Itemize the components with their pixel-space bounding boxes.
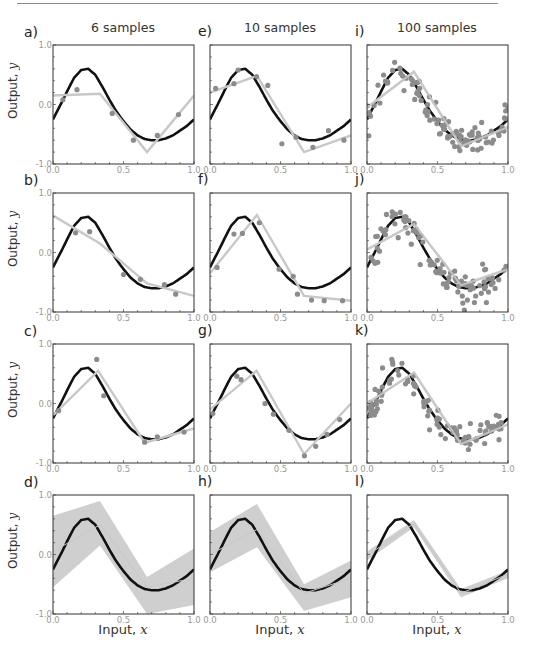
panel-e: 0.00.51.0 [203,45,358,175]
sample-point [431,117,436,122]
model-fit-line [210,76,351,152]
panel-g: 0.00.51.0 [203,344,358,474]
sample-point [417,86,422,91]
sample-point [176,112,181,117]
sample-point [375,83,380,88]
sample-point [182,429,187,434]
sample-point [238,377,243,382]
sample-point [377,100,382,105]
sample-point [455,289,460,294]
sample-point [432,262,437,267]
x-tick-label: 1.0 [501,464,515,474]
x-tick-label: 0.5 [117,615,131,625]
panel-h: 0.00.51.0 [203,495,358,625]
sample-point [460,300,465,305]
sample-point [466,447,471,452]
sample-point [74,87,79,92]
model-fit-line [367,524,508,594]
sample-point [443,436,448,441]
sample-point [392,221,397,226]
sample-point [213,86,218,91]
x-tick-label: 1.0 [501,615,515,625]
sample-point [437,425,442,430]
sample-point [496,277,501,282]
panel-c: 0.00.51.01.00.0-1.0 [35,339,200,474]
panel-d: 0.00.51.01.00.0-1.0 [35,490,200,625]
x-tick-label: 1.0 [501,165,515,175]
x-tick-label: 0.0 [203,615,217,625]
sample-point [419,98,424,103]
sample-point [483,267,488,272]
sample-point [257,220,262,225]
sample-point [434,269,439,274]
sample-point [240,231,245,236]
sample-point [265,83,270,88]
sample-point [385,80,390,85]
x-tick-label: 1.0 [344,313,358,323]
figure-grid: 0.00.51.01.00.0-1.00.00.51.01.00.0-1.00.… [0,0,540,659]
sample-point [390,362,395,367]
sample-point [389,214,394,219]
sample-point [482,441,487,446]
sample-point [73,230,78,235]
x-tick-label: 1.0 [187,165,201,175]
sample-point [463,137,468,142]
sample-point [410,82,415,87]
sample-point [503,116,508,121]
sample-point [468,421,473,426]
sample-point [286,428,291,433]
panel-a: 0.00.51.01.00.0-1.0 [35,40,200,175]
sample-point [486,290,491,295]
y-tick-label: 0.0 [38,248,52,258]
sample-point [442,127,447,132]
sample-point [496,414,501,419]
true-function-curve [210,368,351,439]
sample-point [390,68,395,73]
x-tick-label: 0.5 [431,464,445,474]
sample-point [502,102,507,107]
sample-point [392,60,397,65]
sample-point [414,91,419,96]
sample-point [121,272,126,277]
sample-point [155,434,160,439]
sample-point [405,231,410,236]
sample-point [478,422,483,427]
x-tick-label: 0.5 [431,313,445,323]
sample-point [409,242,414,247]
sample-point [380,365,385,370]
sample-point [470,133,475,138]
axes-frame [367,45,508,164]
y-tick-label: 1.0 [38,40,52,50]
sample-point [412,97,417,102]
sample-point [340,298,345,303]
x-tick-label: 0.5 [117,313,131,323]
sample-point [236,67,241,72]
sample-point [480,262,485,267]
sample-point [421,404,426,409]
sample-point [337,417,342,422]
sample-point [477,428,482,433]
panel-i: 0.00.51.0 [360,45,515,175]
sample-point [472,300,477,305]
sample-point [372,261,377,266]
model-fit-line [53,371,194,443]
uncertainty-band [53,501,194,614]
x-tick-label: 0.5 [431,165,445,175]
x-tick-label: 0.0 [203,464,217,474]
sample-point [313,444,318,449]
axes-frame [53,344,194,463]
sample-point [457,424,462,429]
sample-point [60,97,65,102]
sample-point [56,408,61,413]
sample-point [405,379,410,384]
sample-point [459,128,464,133]
x-tick-label: 0.5 [274,615,288,625]
sample-point [427,258,432,263]
sample-point [503,108,508,113]
sample-point [279,141,284,146]
sample-point [383,232,388,237]
sample-point [437,131,442,136]
sample-point [421,399,426,404]
axes-frame [367,193,508,312]
panel-b: 0.00.51.01.00.0-1.0 [35,188,200,323]
